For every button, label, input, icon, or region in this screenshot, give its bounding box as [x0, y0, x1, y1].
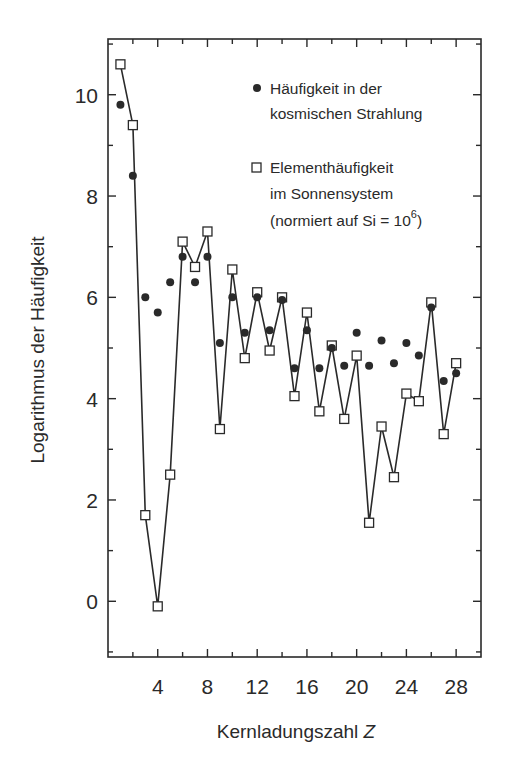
legend-solar-line2: im Sonnensystem: [270, 185, 393, 202]
square-marker-icon: [166, 470, 175, 479]
square-marker-icon: [452, 359, 461, 368]
square-marker-icon: [340, 414, 349, 423]
square-marker-icon: [178, 237, 187, 246]
square-marker-icon: [315, 407, 324, 416]
legend-cosmic-line2: kosmischen Strahlung: [270, 105, 423, 122]
solar-system-polyline: [120, 64, 456, 606]
x-tick-labels: 481216202428: [152, 675, 468, 698]
square-marker-icon: [128, 121, 137, 130]
dot-marker-icon: [266, 326, 274, 334]
dot-marker-icon: [365, 362, 373, 370]
dot-marker-icon: [328, 344, 336, 352]
x-tick-label: 28: [444, 675, 467, 698]
dot-marker-icon: [141, 293, 149, 301]
square-marker-icon: [191, 262, 200, 271]
square-marker-icon: [240, 354, 249, 363]
square-marker-icon: [141, 511, 150, 520]
square-marker-icon: [228, 265, 237, 274]
dot-marker-icon: [203, 253, 211, 261]
dot-marker-icon: [303, 326, 311, 334]
dot-marker-icon: [179, 253, 187, 261]
y-axis-title: Logarithmus der Häufigkeit: [27, 236, 48, 464]
legend: Häufigkeit in der kosmischen Strahlung E…: [252, 80, 423, 229]
dot-marker-icon: [415, 352, 423, 360]
square-marker-icon: [402, 389, 411, 398]
square-marker-icon: [352, 351, 361, 360]
square-marker-icon: [365, 518, 374, 527]
square-marker-icon: [215, 425, 224, 434]
abundance-chart: 481216202428 0246810 Häufigkeit in der k…: [0, 0, 508, 773]
x-axis-title: Kernladungszahl Z: [217, 721, 377, 742]
dot-marker-icon: [440, 377, 448, 385]
x-tick-label: 20: [345, 675, 368, 698]
solar-system-markers: [116, 60, 461, 611]
dot-marker-icon: [278, 296, 286, 304]
square-marker-icon: [116, 60, 125, 69]
square-marker-icon: [153, 602, 162, 611]
x-tick-label: 4: [152, 675, 164, 698]
dot-marker-icon: [353, 329, 361, 337]
y-tick-label: 4: [86, 388, 98, 411]
x-tick-label: 16: [295, 675, 318, 698]
square-marker-icon: [203, 227, 212, 236]
square-marker-icon: [414, 397, 423, 406]
y-tick-label: 2: [86, 489, 98, 512]
dot-marker-icon: [253, 293, 261, 301]
dot-marker-icon: [390, 359, 398, 367]
dot-marker-icon: [116, 101, 124, 109]
legend-solar-line1: Elementhäufigkeit: [270, 159, 394, 176]
square-marker-icon: [265, 346, 274, 355]
y-tick-label: 10: [75, 84, 98, 107]
dot-marker-icon: [315, 364, 323, 372]
dot-marker-icon: [129, 172, 137, 180]
legend-square-icon: [252, 163, 261, 172]
dot-marker-icon: [378, 336, 386, 344]
x-tick-label: 24: [395, 675, 419, 698]
square-marker-icon: [302, 308, 311, 317]
square-marker-icon: [389, 473, 398, 482]
solar-system-line: [120, 64, 456, 606]
dot-marker-icon: [291, 364, 299, 372]
legend-solar-line3: (normiert auf Si = 106): [270, 208, 422, 229]
legend-cosmic-line1: Häufigkeit in der: [270, 80, 382, 97]
square-marker-icon: [439, 430, 448, 439]
legend-solar-close: ): [417, 212, 422, 229]
y-tick-label: 8: [86, 185, 98, 208]
dot-marker-icon: [427, 303, 435, 311]
x-axis-title-symbol: Z: [363, 721, 377, 742]
y-tick-label: 6: [86, 286, 98, 309]
x-axis-title-main: Kernladungszahl: [217, 721, 364, 742]
dot-marker-icon: [241, 329, 249, 337]
square-marker-icon: [377, 422, 386, 431]
x-tick-label: 8: [202, 675, 214, 698]
dot-marker-icon: [166, 278, 174, 286]
dot-marker-icon: [452, 369, 460, 377]
y-tick-label: 0: [86, 590, 98, 613]
x-tick-label: 12: [246, 675, 269, 698]
dot-marker-icon: [228, 293, 236, 301]
dot-marker-icon: [340, 362, 348, 370]
square-marker-icon: [290, 392, 299, 401]
dot-marker-icon: [154, 309, 162, 317]
dot-marker-icon: [191, 278, 199, 286]
legend-dot-icon: [253, 84, 261, 92]
dot-marker-icon: [402, 339, 410, 347]
dot-marker-icon: [216, 339, 224, 347]
legend-solar-norm: (normiert auf Si = 10: [270, 212, 411, 229]
y-tick-labels: 0246810: [75, 84, 99, 614]
